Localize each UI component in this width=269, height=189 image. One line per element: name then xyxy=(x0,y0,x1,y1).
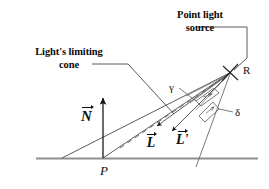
label-point-r: R xyxy=(243,65,250,76)
label-vector-normal-glyph: N xyxy=(79,109,94,124)
label-angle-gamma: γ xyxy=(169,82,174,93)
label-point-p: P xyxy=(100,164,108,177)
cone-lower-edge xyxy=(103,73,231,159)
L-prime-vector-ray xyxy=(172,73,230,131)
label-vector-light-prime: L' xyxy=(176,128,188,147)
callout-limiting-cone: Light's limiting cone xyxy=(14,47,124,70)
figure-canvas: Point light source Light's limiting cone… xyxy=(0,0,269,189)
limiting-cone-leader xyxy=(92,64,174,114)
angle-delta-marker xyxy=(199,102,233,122)
right-boundary-ray xyxy=(196,73,231,168)
point-light-source-leader xyxy=(196,27,247,70)
over-arrow-icon xyxy=(81,104,94,109)
label-vector-light-glyph: L xyxy=(145,136,157,150)
callout-limiting-cone-line2: cone xyxy=(14,60,124,71)
over-arrow-icon xyxy=(146,131,157,136)
label-vector-light: L xyxy=(145,131,157,150)
callout-point-light-source-line2: source xyxy=(163,23,237,34)
callout-point-light-source: Point light source xyxy=(163,10,237,33)
over-arrow-icon xyxy=(177,128,188,133)
callout-point-light-source-line1: Point light xyxy=(177,9,223,20)
label-angle-delta: δ xyxy=(235,107,240,118)
point-R-cross xyxy=(222,64,238,81)
label-vector-light-prime-glyph: L' xyxy=(176,133,188,147)
callout-limiting-cone-line1: Light's limiting xyxy=(35,46,103,57)
label-vector-normal: N xyxy=(79,104,94,124)
